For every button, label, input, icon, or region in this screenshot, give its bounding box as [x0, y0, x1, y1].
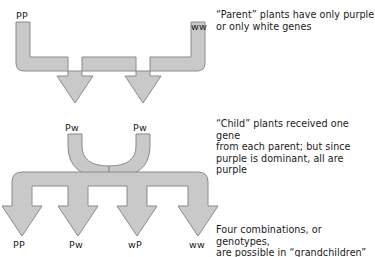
- grandchild-label-1: PP: [13, 240, 25, 250]
- grandchild-distribution-bracket-shape: [2, 172, 218, 236]
- parent-label-right: ww: [191, 22, 207, 32]
- child-label-left: Pw: [65, 123, 79, 133]
- child-cross-u-connector-shape-right: [109, 134, 150, 178]
- child-cross-u-connector-shape: [68, 134, 109, 178]
- caption-grandchildren: Four combinations, or genotypes, are pos…: [216, 224, 375, 257]
- grandchild-label-2: Pw: [69, 240, 83, 250]
- child-label-right: Pw: [133, 123, 147, 133]
- genetics-inheritance-diagram: PP ww Pw Pw PP Pw wP ww “Parent” plants …: [0, 0, 375, 257]
- caption-children: “Child” plants received one gene from ea…: [216, 118, 375, 176]
- parent-label-left: PP: [16, 11, 28, 21]
- grandchild-label-3: wP: [128, 240, 142, 250]
- parent-cross-bracket-shape: [16, 22, 205, 103]
- grandchild-label-4: ww: [189, 240, 205, 250]
- caption-parents: “Parent” plants have only purple or only…: [216, 9, 374, 32]
